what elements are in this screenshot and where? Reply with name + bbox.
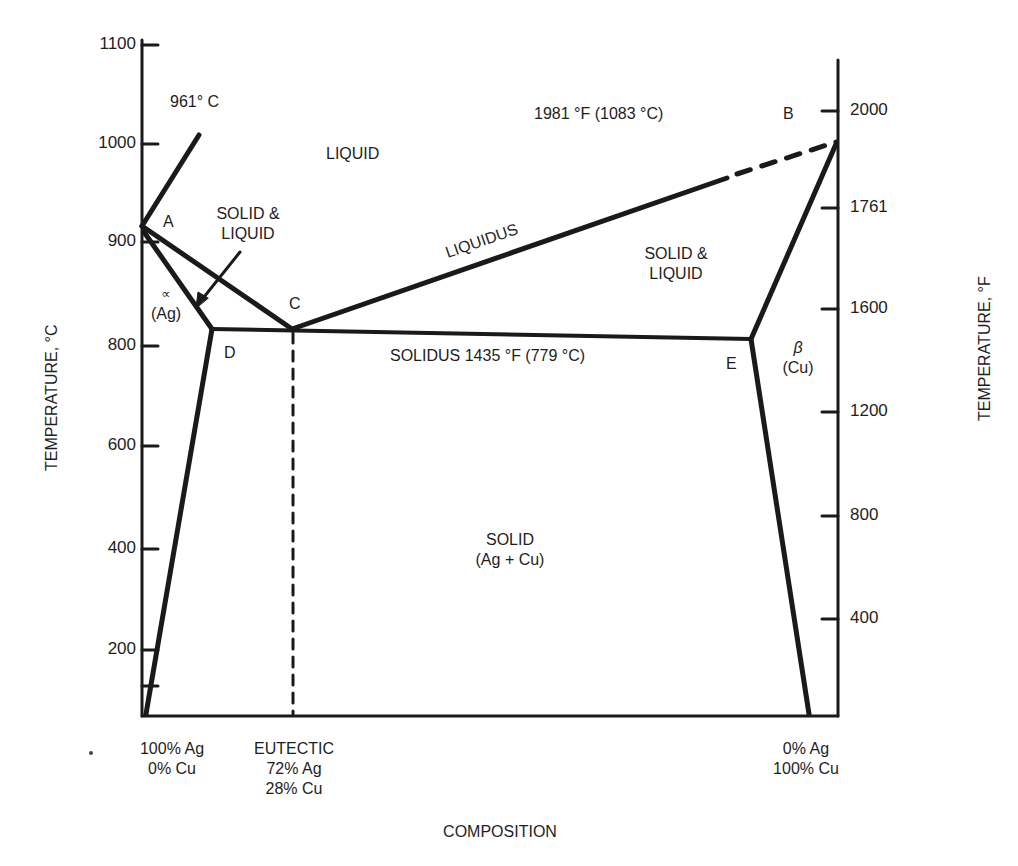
right-tick-label: 1200 (850, 401, 910, 421)
liquid-region-label: LIQUID (326, 144, 379, 164)
eutectic-line2: 72% Ag (249, 759, 339, 779)
point-c-label: C (289, 294, 301, 314)
left-tick-label: 1100 (76, 34, 136, 54)
alpha-sub: (Ag) (146, 304, 186, 324)
beta-sub: (Cu) (778, 358, 818, 378)
alpha-solvus-line (146, 329, 212, 714)
ag-melting-temp-label: 961° C (170, 92, 219, 112)
eutectic-line3: 28% Cu (249, 779, 339, 799)
alpha-phase-label: ∝ (Ag) (146, 284, 186, 324)
solid-liquid-right-line2: LIQUID (638, 264, 714, 284)
left-axis-ticks (142, 45, 158, 686)
solid-line2: (Ag + Cu) (460, 550, 560, 570)
y-axis-left-label: TEMPERATURE, °C (43, 331, 61, 471)
y-axis-right-label: TEMPERATURE, °F (976, 281, 994, 421)
right-tick-label: 2000 (850, 100, 910, 120)
beta-solvus-line (751, 339, 809, 714)
solid-liquid-left-line2: LIQUID (212, 224, 284, 244)
right-tick-label: 1761 (850, 197, 910, 217)
liquidus-dashed (737, 142, 836, 174)
cu-end-line1: 0% Ag (756, 739, 856, 759)
right-tick-label: 1600 (850, 298, 910, 318)
left-tick-label: 600 (76, 435, 136, 455)
beta-symbol: β (778, 338, 818, 358)
ag-end-composition: 100% Ag 0% Cu (132, 739, 212, 779)
solid-liquid-right-line1: SOLID & (638, 244, 714, 264)
solid-region-label: SOLID (Ag + Cu) (460, 530, 560, 570)
left-tick-label: 400 (76, 538, 136, 558)
eutectic-line1: EUTECTIC (249, 739, 339, 759)
cu-end-line2: 100% Cu (756, 759, 856, 779)
beta-phase-label: β (Cu) (778, 338, 818, 378)
point-b-label: B (783, 104, 794, 124)
right-tick-label: 400 (850, 608, 910, 628)
left-tick-label: 200 (76, 639, 136, 659)
solid-liquid-right-label: SOLID & LIQUID (638, 244, 714, 284)
left-tick-label: 900 (76, 231, 136, 251)
ag-end-line1: 100% Ag (132, 739, 212, 759)
right-tick-label: 800 (850, 505, 910, 525)
point-d-label: D (224, 343, 236, 363)
left-tick-label: 1000 (76, 133, 136, 153)
cu-melting-temp-label: 1981 °F (1083 °C) (534, 104, 663, 124)
solid-liquid-left-label: SOLID & LIQUID (212, 204, 284, 244)
left-tick-label: 800 (76, 335, 136, 355)
solidus-label: SOLIDUS 1435 °F (779 °C) (390, 346, 585, 366)
ag-end-line2: 0% Cu (132, 759, 212, 779)
x-axis-label: COMPOSITION (420, 822, 580, 842)
stray-dot (89, 751, 93, 755)
phase-diagram-canvas (0, 0, 1018, 866)
point-e-label: E (726, 354, 737, 374)
alpha-symbol: ∝ (146, 284, 186, 304)
solid-liquid-left-line1: SOLID & (212, 204, 284, 224)
pointer-arrow (200, 252, 240, 302)
right-axis-ticks (822, 111, 838, 619)
cu-end-composition: 0% Ag 100% Cu (756, 739, 856, 779)
solid-line1: SOLID (460, 530, 560, 550)
point-a-label: A (163, 212, 174, 232)
eutectic-composition: EUTECTIC 72% Ag 28% Cu (249, 739, 339, 799)
